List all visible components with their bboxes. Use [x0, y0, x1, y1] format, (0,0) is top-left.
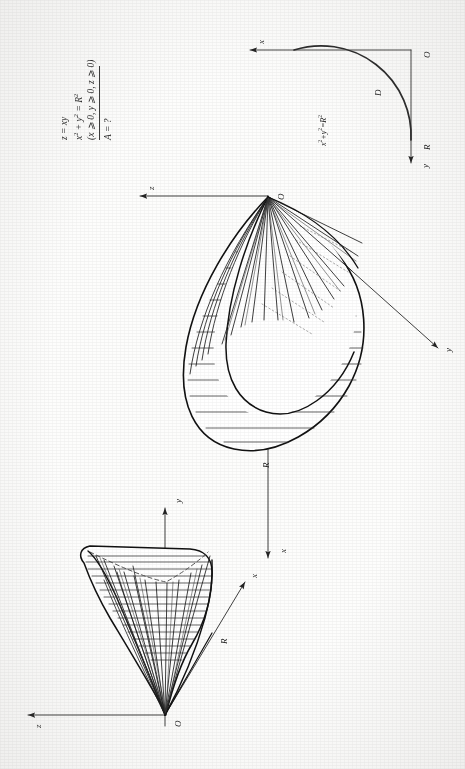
main-axis-y-label: y [443, 348, 453, 352]
domain-axis-x-label: x [256, 40, 266, 44]
surface-secondary [28, 508, 245, 726]
domain-origin-label: O [422, 52, 432, 59]
scanned-page: z = xy x2 + y2 = R2 (x ⩾ 0, y ⩾ 0, z ⩾ 0… [0, 0, 465, 769]
main-axis-z-label: z [146, 186, 156, 190]
main-axis-x-label: x [278, 549, 288, 553]
sec-axis-x-label: x [249, 574, 259, 578]
main-origin-label: O [276, 194, 286, 201]
surface-main [140, 196, 438, 558]
sec-axis-z-label: z [33, 724, 43, 728]
sec-radius-label: R [219, 639, 229, 645]
domain-curve-label: x2+y2=R2 [317, 115, 328, 146]
sec-axis-y-label: y [173, 499, 183, 503]
domain-region-label: D [373, 90, 383, 97]
domain-axis-y-label: y [420, 164, 430, 168]
quarter-disk-domain [250, 46, 411, 163]
sec-origin-label: O [173, 721, 183, 728]
main-radius-label: R [261, 463, 271, 469]
domain-radius-label: R [422, 145, 432, 151]
figures-canvas [0, 0, 465, 769]
domain-arc [294, 46, 411, 140]
